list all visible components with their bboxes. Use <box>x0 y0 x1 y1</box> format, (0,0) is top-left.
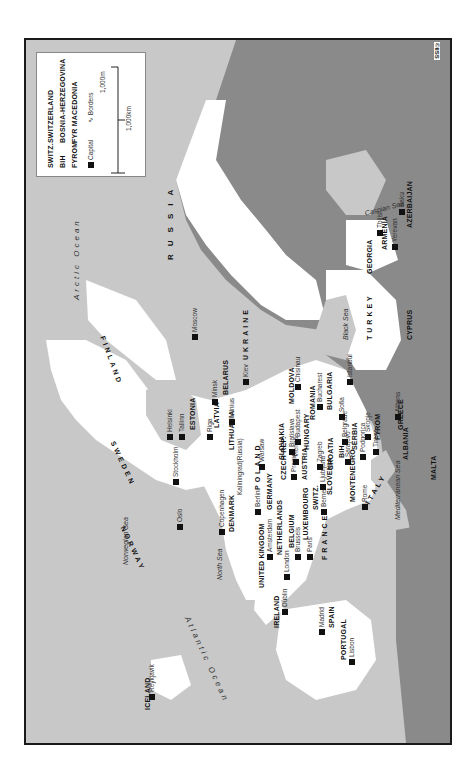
label-city-stockholm: Stockholm <box>172 447 179 485</box>
legend-abbr-switz: SWITZ. <box>47 143 54 168</box>
capital-icon <box>342 439 348 445</box>
scale-label-km: 1,000km <box>125 106 132 131</box>
label-city-athens: Athens <box>394 392 401 420</box>
capital-icon <box>177 524 183 530</box>
label-city-brussels: Brussels <box>294 527 301 560</box>
label-city-lisbon: Lisbon <box>348 638 355 665</box>
legend-abbr-bih: BiH <box>59 155 66 168</box>
label-city-copenhagen: Copenhagen <box>218 490 225 535</box>
capital-icon <box>179 434 185 440</box>
capital-icon <box>373 449 379 455</box>
label-country-austria: AUSTRIA <box>301 447 308 480</box>
label-country-luxembourg: LUXEMBOURG <box>302 487 309 540</box>
label-city-berlin: Berlin <box>254 490 261 515</box>
capital-icon <box>320 484 326 490</box>
label-country-latvia: LATVIA <box>213 402 220 428</box>
capital-icon <box>291 474 297 480</box>
capital-icon <box>212 399 218 405</box>
label-country-portugal: PORTUGAL <box>340 619 347 660</box>
label-city-yerevan: Yerevan <box>391 218 398 250</box>
label-country-switz: SWITZ. <box>312 485 319 510</box>
capital-icon <box>282 609 288 615</box>
scale-label-miles: 1,000m <box>99 71 106 93</box>
label-city-helsinki: Helsinki <box>166 409 173 440</box>
capital-icon <box>321 509 327 515</box>
capital-icon <box>295 554 301 560</box>
label-country-ireland: IRELAND <box>273 595 280 628</box>
label-country-ukraine: UKRAINE <box>242 307 249 360</box>
label-city-amsterdam: Amsterdam <box>266 519 273 560</box>
label-city-baku: Baku <box>398 192 405 215</box>
label-city-london: London <box>283 550 290 580</box>
label-sea-north: North Sea <box>216 548 223 580</box>
capital-icon <box>349 659 355 665</box>
capital-icon <box>167 434 173 440</box>
label-city-tbilisi: Tbilisi <box>376 211 383 236</box>
label-city-vilnius: Vilnius <box>228 398 235 425</box>
capital-icon <box>365 434 371 440</box>
label-country-germany: GERMANY <box>266 473 273 510</box>
capital-icon <box>293 459 299 465</box>
label-country-france: FRANCE <box>321 513 328 560</box>
label-city-oslo: Oslo <box>176 509 183 530</box>
legend-full-bih: BOSNIA-HERZEGOVINA <box>59 59 66 144</box>
label-city-istanbul: Istanbul <box>346 354 353 385</box>
capital-icon <box>267 554 273 560</box>
label-city-tirana: Tirana <box>372 429 379 455</box>
label-city-minsk: Minsk <box>211 380 218 405</box>
label-city-budapest: Budapest <box>294 410 301 445</box>
label-city-tallinn: Tallinn <box>178 414 185 440</box>
capital-icon <box>289 449 295 455</box>
landmass-iceland <box>151 655 191 700</box>
capital-icon <box>345 459 351 465</box>
copyright-label: ©IISS <box>434 42 440 60</box>
capital-icon <box>284 574 290 580</box>
capital-icon <box>219 529 225 535</box>
capital-icon <box>360 454 366 460</box>
label-city-paris: Paris <box>306 537 313 560</box>
capital-icon <box>399 209 405 215</box>
capital-icon <box>149 694 155 700</box>
label-country-estonia: ESTONIA <box>189 398 196 430</box>
capital-icon <box>229 419 235 425</box>
map-legend: SWITZ. SWITZERLAND BiH BOSNIA-HERZEGOVIN… <box>36 52 146 177</box>
label-city-bern: Berne <box>320 490 327 515</box>
label-country-malta: MALTA <box>430 456 437 480</box>
capital-icon <box>295 439 301 445</box>
label-country-azerbaijan: AZERBAIJAN <box>406 181 413 228</box>
capital-icon <box>317 404 323 410</box>
label-country-belarus: BELARUS <box>222 360 229 395</box>
capital-icon <box>347 379 353 385</box>
label-sea-mediterranean: Mediterranean Sea <box>394 460 401 520</box>
legend-full-switz: SWITZERLAND <box>47 90 54 143</box>
capital-icon <box>243 379 249 385</box>
border-line-icon: ∿ <box>87 115 94 123</box>
capital-icon <box>259 464 265 470</box>
capital-icon <box>317 464 323 470</box>
label-ocean-arctic: Arctic Ocean <box>72 218 81 300</box>
label-city-bucharest: Bucharest <box>316 373 323 410</box>
capital-icon <box>88 162 94 168</box>
label-city-moscow: Moscow <box>191 308 198 340</box>
capital-icon <box>319 629 325 635</box>
capital-icon <box>307 554 313 560</box>
label-country-uk: UNITED KINGDOM <box>258 523 265 588</box>
legend-capital: Capital <box>87 140 94 168</box>
capital-icon <box>377 230 383 236</box>
capital-icon <box>395 414 401 420</box>
label-country-serbia: SERBIA <box>351 422 358 450</box>
landmass-iberia <box>276 600 376 700</box>
landmass-africa <box>396 520 450 743</box>
label-country-netherlands: NETHERLANDS <box>276 500 283 555</box>
label-city-reykjavik: Reykjavik <box>148 664 155 700</box>
label-city-kaliningrad: Kaliningrad(Russia) <box>236 438 243 495</box>
label-city-warsaw: Warsaw <box>258 439 265 470</box>
label-city-kiev: Kiev <box>242 364 249 385</box>
label-city-riga: Riga <box>206 419 213 440</box>
label-country-croatia: CROATIA <box>327 437 334 470</box>
label-city-rome: Rome <box>361 485 368 510</box>
capital-icon <box>392 244 398 250</box>
label-country-cyprus: CYPRUS <box>406 310 413 340</box>
label-country-denmark: DENMARK <box>228 495 235 532</box>
label-city-chisinau: Chisinau <box>294 357 301 390</box>
